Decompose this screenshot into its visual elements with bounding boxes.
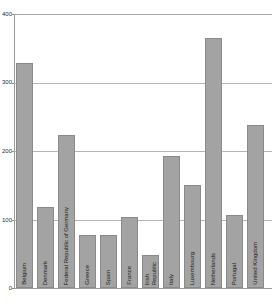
bar-label-greece: Greece <box>84 265 91 285</box>
bar-label-belgium: Belgium <box>21 263 28 285</box>
bar-chart: 400 300 200 100 0 Belgium Denmark <box>0 0 275 301</box>
y-tick-label-200: 200 <box>2 148 12 154</box>
bar-belgium[interactable]: Belgium <box>16 63 33 288</box>
bar-denmark[interactable]: Denmark <box>37 207 54 289</box>
bar-label-italy: Italy <box>168 274 175 285</box>
y-axis-labels: 400 300 200 100 0 <box>0 0 12 301</box>
bar-label-denmark: Denmark <box>42 261 49 285</box>
bar-netherlands[interactable]: Netherlands <box>205 38 222 288</box>
bar-germany[interactable]: Federal Republic of Germany <box>58 135 75 288</box>
bar-spain[interactable]: Spain <box>100 235 117 288</box>
bar-portugal[interactable]: Portugal <box>226 215 243 288</box>
bar-ireland[interactable]: IrishRepublic <box>142 255 159 288</box>
y-tick-label-400: 400 <box>2 11 12 17</box>
bar-label-france: France <box>126 266 133 285</box>
y-tick-label-100: 100 <box>2 217 12 223</box>
bar-label-uk: United Kingdom <box>252 242 259 285</box>
plot-area: Belgium Denmark Federal Republic of Germ… <box>14 14 272 288</box>
y-tick-label-300: 300 <box>2 79 12 85</box>
bar-uk[interactable]: United Kingdom <box>247 125 264 288</box>
bar-label-portugal: Portugal <box>231 263 238 285</box>
bar-france[interactable]: France <box>121 217 138 288</box>
bar-label-germany: Federal Republic of Germany <box>63 207 70 285</box>
bar-label-netherlands: Netherlands <box>210 253 217 285</box>
bar-label-luxembourg: Luxembourg <box>189 252 196 285</box>
bar-greece[interactable]: Greece <box>79 235 96 288</box>
bar-label-ireland: IrishRepublic <box>144 262 158 285</box>
bar-italy[interactable]: Italy <box>163 156 180 288</box>
x-axis-line <box>14 288 272 289</box>
bar-luxembourg[interactable]: Luxembourg <box>184 185 201 288</box>
bar-label-spain: Spain <box>105 270 112 285</box>
bars-layer: Belgium Denmark Federal Republic of Germ… <box>14 14 272 288</box>
